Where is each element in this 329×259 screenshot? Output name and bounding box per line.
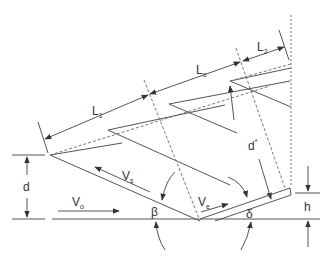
label-L1: L1 bbox=[92, 104, 103, 119]
layer-4-top bbox=[230, 68, 291, 81]
label-d: d bbox=[23, 180, 30, 194]
d-star-arrow bbox=[230, 86, 234, 120]
label-L2: L2 bbox=[257, 40, 268, 55]
label-delta: δ bbox=[246, 207, 253, 221]
L1-left-tick bbox=[38, 122, 48, 153]
delta-arc-top bbox=[228, 177, 247, 197]
label-d-star: d* bbox=[248, 138, 258, 153]
layer-3-edge bbox=[169, 104, 237, 133]
layer-1-dashed bbox=[50, 86, 270, 155]
layer-1 bbox=[50, 143, 122, 155]
d-star-arrow-down bbox=[259, 159, 271, 199]
layer-2-top bbox=[108, 105, 225, 130]
layer-4-edge bbox=[230, 81, 291, 107]
beta-arc-top bbox=[162, 172, 175, 200]
label-beta: β bbox=[151, 205, 158, 219]
label-Vo: Vo bbox=[72, 195, 84, 210]
Lo-dim bbox=[150, 62, 240, 94]
label-Ve: Ve bbox=[198, 195, 210, 210]
flow-diagram: d L1 Lo L2 d* Vs Vo Ve β δ bbox=[0, 0, 329, 259]
layer-3-top bbox=[169, 81, 290, 104]
label-Lo: Lo bbox=[196, 63, 207, 78]
jet-lower bbox=[215, 195, 291, 221]
label-Vs: Vs bbox=[122, 169, 134, 184]
mid-dashed-2 bbox=[236, 48, 285, 188]
delta-arc-bottom bbox=[241, 222, 251, 250]
layer-5-dashed bbox=[230, 64, 291, 81]
label-h: h bbox=[304, 200, 311, 214]
jet-end bbox=[290, 188, 291, 195]
beta-arc-bottom bbox=[156, 222, 165, 250]
L2-right-tick bbox=[279, 30, 289, 60]
